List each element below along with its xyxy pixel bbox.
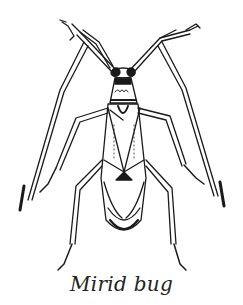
pronotum (110, 78, 137, 103)
head (111, 68, 135, 78)
mirid-bug-illustration (0, 0, 243, 275)
figure-caption: Mirid bug (0, 272, 243, 296)
body-wings (101, 104, 146, 230)
